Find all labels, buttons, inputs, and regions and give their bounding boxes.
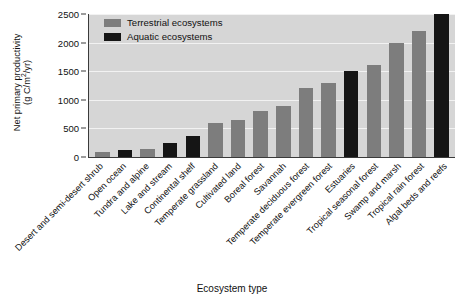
bar	[95, 152, 109, 157]
y-tick-label: 2000	[58, 37, 79, 48]
legend-label: Aquatic ecosystems	[127, 31, 212, 42]
bar	[118, 150, 132, 157]
bar-slot	[272, 14, 295, 157]
bar-slot	[340, 14, 363, 157]
legend-swatch-aquatic	[104, 33, 121, 41]
bar	[367, 65, 381, 157]
bar	[208, 123, 222, 157]
y-axis-title-line2: (g C/m2/yr)	[23, 34, 33, 132]
legend-label: Terrestrial ecosystems	[127, 17, 222, 28]
x-tick-label: Desert and semi-desert shrub	[14, 159, 108, 253]
y-tick-label: 2500	[58, 9, 79, 20]
y-tick-label: 0	[74, 152, 79, 163]
y-tick-mark	[81, 128, 86, 129]
y-tick-mark	[81, 14, 86, 15]
bar	[389, 43, 403, 157]
bar-slot	[385, 14, 408, 157]
y-axis-ticks: 05001000150020002500	[44, 0, 86, 170]
y-tick-label: 500	[63, 123, 79, 134]
bar-slot	[430, 14, 453, 157]
bar	[344, 71, 358, 157]
bar	[186, 136, 200, 157]
bar	[276, 106, 290, 157]
bar-slot	[363, 14, 386, 157]
bar-slot	[408, 14, 431, 157]
y-tick-mark	[81, 157, 86, 158]
legend-swatch-terrestrial	[104, 19, 121, 27]
bar-slot	[249, 14, 272, 157]
bar	[253, 111, 267, 157]
x-axis-tick-labels: Desert and semi-desert shrubOpen oceanTu…	[89, 159, 455, 287]
bar	[434, 14, 448, 157]
bar	[412, 31, 426, 157]
y-tick-label: 1000	[58, 94, 79, 105]
x-tick-label-text: Desert and semi-desert shrub	[14, 159, 108, 253]
y-tick-mark	[81, 99, 86, 100]
bar	[163, 143, 177, 157]
x-axis-title: Ecosystem type	[0, 283, 464, 294]
bar	[299, 88, 313, 157]
legend-item: Aquatic ecosystems	[104, 30, 222, 43]
chart-figure: Net primary productivity (g C/m2/yr) 050…	[0, 0, 464, 304]
bar	[231, 120, 245, 157]
bar-slot	[295, 14, 318, 157]
bar	[140, 149, 154, 157]
bar-slot	[227, 14, 250, 157]
bar	[321, 83, 335, 157]
y-tick-label: 1500	[58, 66, 79, 77]
y-tick-mark	[81, 71, 86, 72]
x-axis-line	[88, 157, 455, 158]
y-tick-mark	[81, 42, 86, 43]
chart-legend: Terrestrial ecosystemsAquatic ecosystems	[104, 16, 222, 44]
bar-slot	[317, 14, 340, 157]
y-axis-title: Net primary productivity (g C/m2/yr)	[2, 0, 44, 165]
legend-item: Terrestrial ecosystems	[104, 16, 222, 29]
